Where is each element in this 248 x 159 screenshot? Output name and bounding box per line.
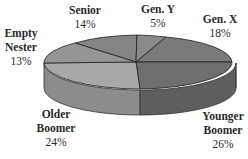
label-name-line1: Empty	[0, 26, 45, 40]
pie-chart: Gen. Y 5% Gen. X 18% Younger Boomer 26% …	[0, 0, 248, 159]
label-percent: 14%	[63, 17, 107, 31]
label-empty-nester: Empty Nester 13%	[0, 26, 45, 68]
label-name: Gen. Y	[138, 2, 178, 16]
label-senior: Senior 14%	[63, 3, 107, 31]
label-percent: 26%	[195, 137, 248, 151]
label-name: Gen. X	[200, 12, 240, 26]
label-older-boomer: Older Boomer 24%	[28, 107, 84, 149]
label-younger-boomer: Younger Boomer 26%	[195, 109, 248, 151]
label-percent: 24%	[28, 135, 84, 149]
label-name-line1: Older	[28, 107, 84, 121]
label-percent: 18%	[200, 26, 240, 40]
label-gen-x: Gen. X 18%	[200, 12, 240, 40]
label-percent: 5%	[138, 16, 178, 30]
label-gen-y: Gen. Y 5%	[138, 2, 178, 30]
label-name-line2: Boomer	[195, 123, 248, 137]
label-name-line2: Boomer	[28, 121, 84, 135]
label-percent: 13%	[0, 54, 45, 68]
label-name-line1: Younger	[195, 109, 248, 123]
label-name-line2: Nester	[0, 40, 45, 54]
label-name: Senior	[63, 3, 107, 17]
